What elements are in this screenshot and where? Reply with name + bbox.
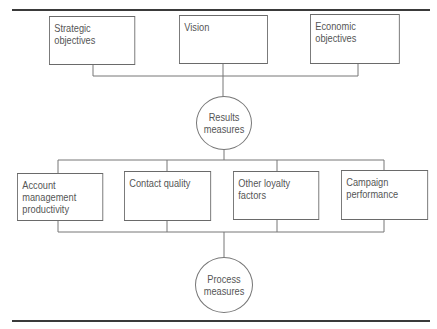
node-label-line1: Process (204, 273, 245, 286)
node-vision: Vision (179, 15, 268, 64)
node-contact-quality: Contact quality (124, 171, 211, 221)
node-label-line2: performance (346, 188, 423, 200)
node-label: Economic objectives (315, 20, 394, 44)
node-label-line1: Contact quality (129, 177, 206, 189)
node-account-management-productivity: Account management productivity (17, 173, 103, 221)
node-label-line1: Results (204, 111, 245, 124)
node-label-line2: measures (204, 285, 245, 298)
node-label: Vision (184, 21, 262, 33)
node-process-measures: Process measures (195, 257, 253, 313)
node-label-line1: Account management (22, 179, 98, 203)
node-label-line1: Other loyalty factors (238, 177, 314, 201)
node-other-loyalty-factors: Other loyalty factors (233, 171, 319, 220)
node-results-measures: Results measures (196, 96, 252, 150)
node-label: Strategic objectives (54, 22, 130, 46)
node-label-line1: Campaign (346, 176, 423, 188)
node-label-line2: productivity (22, 203, 98, 215)
node-economic-objectives: Economic objectives (310, 14, 400, 64)
node-label-line2: measures (204, 123, 245, 136)
node-campaign-performance: Campaign performance (341, 170, 428, 220)
node-strategic-objectives: Strategic objectives (49, 16, 135, 65)
